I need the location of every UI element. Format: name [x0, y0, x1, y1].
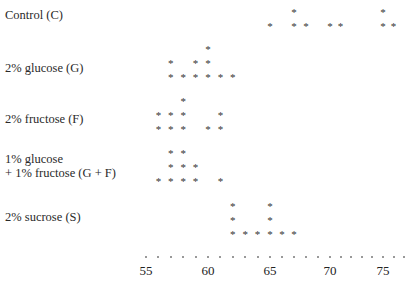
data-point-star: *	[266, 202, 274, 210]
data-point-star: *	[167, 111, 175, 119]
axis-tick-dot	[269, 256, 271, 258]
data-point-star: *	[290, 8, 298, 16]
data-point-star: *	[204, 73, 212, 81]
data-point-star: *	[326, 22, 334, 30]
data-point-star: *	[379, 22, 387, 30]
axis-tick-dot	[329, 256, 331, 258]
x-tick-70: 70	[315, 263, 345, 279]
axis-tick-dot	[207, 256, 209, 258]
data-point-star: *	[167, 149, 175, 157]
data-point-star: *	[192, 73, 200, 81]
axis-tick-dot	[219, 256, 221, 258]
axis-tick-dot	[281, 256, 283, 258]
data-point-star: *	[154, 125, 162, 133]
data-point-star: *	[179, 97, 187, 105]
axis-tick-dot	[317, 256, 319, 258]
axis-tick-dot	[361, 256, 363, 258]
data-point-star: *	[337, 22, 345, 30]
data-point-star: *	[390, 22, 398, 30]
data-point-star: *	[192, 163, 200, 171]
data-point-star: *	[167, 125, 175, 133]
data-point-star: *	[229, 230, 237, 238]
data-point-star: *	[216, 111, 224, 119]
data-point-star: *	[179, 177, 187, 185]
axis-tick-dot	[403, 256, 405, 258]
data-point-star: *	[290, 22, 298, 30]
data-point-star: *	[241, 230, 249, 238]
dot-plot-area: ****************************************…	[0, 0, 410, 285]
axis-tick-dot	[393, 256, 395, 258]
data-point-star: *	[379, 8, 387, 16]
data-point-star: *	[254, 230, 262, 238]
data-point-star: *	[229, 202, 237, 210]
axis-tick-dot	[232, 256, 234, 258]
axis-tick-dot	[340, 256, 342, 258]
data-point-star: *	[229, 73, 237, 81]
data-point-star: *	[216, 177, 224, 185]
axis-tick-dot	[182, 256, 184, 258]
data-point-star: *	[302, 22, 310, 30]
data-point-star: *	[266, 216, 274, 224]
data-point-star: *	[266, 22, 274, 30]
data-point-star: *	[167, 59, 175, 67]
axis-tick-dot	[293, 256, 295, 258]
data-point-star: *	[266, 230, 274, 238]
data-point-star: *	[179, 73, 187, 81]
data-point-star: *	[167, 163, 175, 171]
axis-tick-dot	[382, 256, 384, 258]
axis-tick-dot	[305, 256, 307, 258]
data-point-star: *	[179, 149, 187, 157]
axis-tick-dot	[157, 256, 159, 258]
x-tick-65: 65	[255, 263, 285, 279]
data-point-star: *	[154, 177, 162, 185]
data-point-star: *	[192, 177, 200, 185]
data-point-star: *	[204, 125, 212, 133]
data-point-star: *	[167, 177, 175, 185]
axis-tick-dot	[145, 256, 147, 258]
data-point-star: *	[216, 125, 224, 133]
x-tick-75: 75	[368, 263, 398, 279]
data-point-star: *	[229, 216, 237, 224]
axis-tick-dot	[195, 256, 197, 258]
data-point-star: *	[179, 163, 187, 171]
data-point-star: *	[278, 230, 286, 238]
axis-tick-dot	[170, 256, 172, 258]
axis-tick-dot	[244, 256, 246, 258]
data-point-star: *	[179, 125, 187, 133]
data-point-star: *	[216, 73, 224, 81]
axis-tick-dot	[257, 256, 259, 258]
data-point-star: *	[290, 230, 298, 238]
data-point-star: *	[192, 59, 200, 67]
axis-tick-dot	[350, 256, 352, 258]
data-point-star: *	[154, 111, 162, 119]
data-point-star: *	[179, 111, 187, 119]
x-tick-60: 60	[193, 263, 223, 279]
axis-tick-dot	[371, 256, 373, 258]
data-point-star: *	[167, 73, 175, 81]
data-point-star: *	[204, 59, 212, 67]
x-tick-55: 55	[131, 263, 161, 279]
data-point-star: *	[204, 45, 212, 53]
